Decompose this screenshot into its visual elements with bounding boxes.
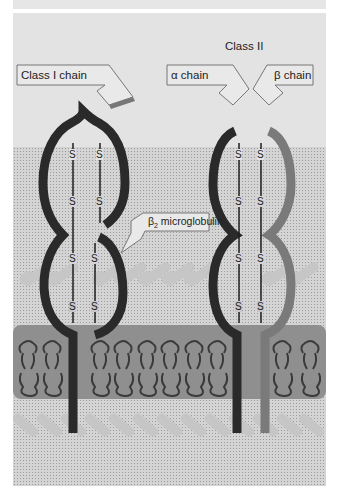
disulfide-s-label: S — [235, 196, 242, 207]
mhc-diagram-graphic — [13, 13, 326, 486]
disulfide-s-label: S — [257, 196, 264, 207]
class1-chain-label: Class I chain — [21, 69, 87, 81]
alpha-chain-label: α chain — [171, 69, 208, 81]
diagram-panel: Class II Class I chain α chain β chain β… — [13, 13, 326, 486]
disulfide-s-label: S — [69, 301, 76, 312]
top-strip — [13, 0, 326, 9]
disulfide-s-label: S — [69, 253, 76, 264]
disulfide-s-label: S — [69, 196, 76, 207]
disulfide-s-label: S — [257, 149, 264, 160]
inner-lipid-heads — [13, 412, 326, 439]
disulfide-s-label: S — [96, 196, 103, 207]
b2m-label: β2 microglobulin — [148, 215, 223, 229]
beta-chain-label: β chain — [274, 69, 311, 81]
disulfide-s-label: S — [91, 301, 98, 312]
disulfide-s-label: S — [91, 253, 98, 264]
disulfide-s-label: S — [257, 253, 264, 264]
outer-lipid-heads — [17, 257, 321, 289]
disulfide-s-label: S — [235, 253, 242, 264]
b2m-text: microglobulin — [158, 215, 223, 227]
disulfide-s-label: S — [235, 301, 242, 312]
disulfide-s-label: S — [96, 149, 103, 160]
disulfide-s-label: S — [69, 149, 76, 160]
class2-heading: Class II — [225, 40, 263, 52]
disulfide-s-label: S — [235, 149, 242, 160]
disulfide-s-label: S — [257, 301, 264, 312]
